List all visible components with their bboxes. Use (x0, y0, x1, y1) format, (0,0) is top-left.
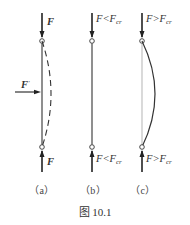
top-pin-icon (90, 39, 95, 44)
top-force-label: F<Fcr (95, 13, 122, 26)
buckled-curve (142, 41, 155, 147)
top-force-label: F (46, 16, 54, 27)
panel-a: F F' F (15, 13, 54, 172)
top-force-label: F>Fcr (145, 13, 172, 26)
panel-c: F>Fcr F>Fcr (140, 13, 173, 172)
bottom-force-label: F (46, 156, 54, 167)
bottom-force-label: F>Fcr (145, 153, 172, 166)
panel-label-a: （a） (27, 182, 57, 197)
panel-b: F<Fcr F<Fcr (90, 13, 123, 172)
lateral-force-label: F' (20, 79, 30, 90)
bottom-pin-icon (40, 145, 45, 150)
deflection-curve-dashed (42, 41, 51, 147)
panel-label-b: （b） (78, 182, 108, 197)
figure-caption: 图 10.1 (0, 203, 190, 219)
bottom-pin-icon (140, 145, 145, 150)
bottom-force-label: F<Fcr (95, 153, 122, 166)
bottom-pin-icon (90, 145, 95, 150)
panel-label-c: （c） (128, 182, 158, 197)
